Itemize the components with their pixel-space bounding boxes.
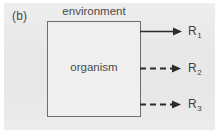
output-label-r3-subscript: 3	[197, 104, 201, 113]
output-label-r1: R1	[188, 25, 201, 37]
output-label-r2: R2	[188, 62, 201, 74]
output-label-r1-subscript: 1	[197, 31, 201, 40]
arrow-r2-dashed	[140, 62, 184, 74]
output-label-r3: R3	[188, 98, 201, 110]
output-label-r2-subscript: 2	[197, 68, 201, 77]
panel-label: (b)	[12, 9, 27, 23]
arrow-r3-dashed	[140, 98, 184, 110]
output-label-r3-base: R	[188, 97, 197, 111]
arrow-r1-solid	[140, 25, 184, 37]
figure-panel-b: (b) environment organism R1 R2 R3	[0, 0, 217, 136]
output-label-r1-base: R	[188, 24, 197, 38]
output-label-r2-base: R	[188, 61, 197, 75]
organism-label: organism	[47, 61, 141, 73]
environment-label: environment	[47, 5, 141, 17]
